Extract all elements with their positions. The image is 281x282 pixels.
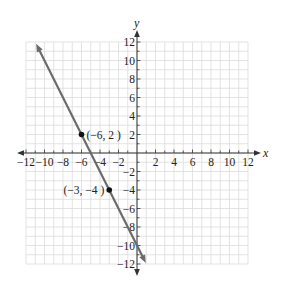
x-tick-label: 2 [153, 156, 159, 168]
x-tick-label: −10 [36, 156, 54, 168]
x-tick-label: −6 [75, 156, 87, 168]
x-axis-right-arrow-icon [254, 150, 261, 156]
point-label: (−3, −4 ) [63, 184, 104, 197]
y-axis-label: y [133, 16, 140, 30]
y-tick-label: −10 [117, 240, 135, 252]
y-tick-label: −6 [123, 203, 135, 215]
y-axis-up-arrow-icon [134, 30, 140, 37]
y-tick-label: 8 [129, 73, 135, 85]
coordinate-plane: −12−10−8−6−4−224681012 −12−10−8−6−4−2246… [0, 0, 281, 282]
point-label: (−6, 2 ) [87, 129, 121, 142]
x-tick-label: −12 [17, 156, 35, 168]
line-end-arrow-icon [139, 254, 145, 263]
y-tick-label: −4 [123, 184, 135, 196]
x-tick-label: 6 [190, 156, 196, 168]
y-tick-label: −2 [123, 166, 135, 178]
data-point [79, 132, 85, 138]
y-tick-label: −12 [117, 258, 135, 270]
y-axis-down-arrow-icon [134, 269, 140, 276]
y-tick-label: 6 [129, 92, 135, 104]
x-tick-label: −8 [57, 156, 69, 168]
data-point [106, 187, 112, 193]
y-tick-label: 10 [124, 55, 136, 67]
y-tick-label: 12 [124, 36, 136, 48]
x-tick-label: 8 [208, 156, 214, 168]
y-tick-label: 2 [129, 129, 135, 141]
y-tick-label: 4 [129, 110, 135, 122]
x-tick-label: 12 [242, 156, 254, 168]
x-axis-left-arrow-icon [17, 150, 24, 156]
x-tick-label: 4 [171, 156, 177, 168]
x-axis-label: x [262, 146, 269, 160]
x-tick-label: 10 [224, 156, 236, 168]
